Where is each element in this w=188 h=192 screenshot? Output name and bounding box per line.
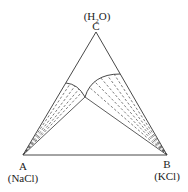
vertex-b-label: B xyxy=(163,159,170,170)
vertex-a-compound-label: (NaCl) xyxy=(8,173,39,184)
vertex-a-label: A xyxy=(19,161,27,172)
nacl-solubility-curve xyxy=(66,83,85,97)
kcl-tie-lines xyxy=(89,74,167,155)
vertex-b-compound-label: (KCl) xyxy=(154,171,180,182)
b-to-invariant-line xyxy=(85,97,167,155)
a-to-invariant-line xyxy=(23,97,85,155)
vertex-c-label: C xyxy=(92,21,99,32)
nacl-tie-lines xyxy=(23,84,82,155)
